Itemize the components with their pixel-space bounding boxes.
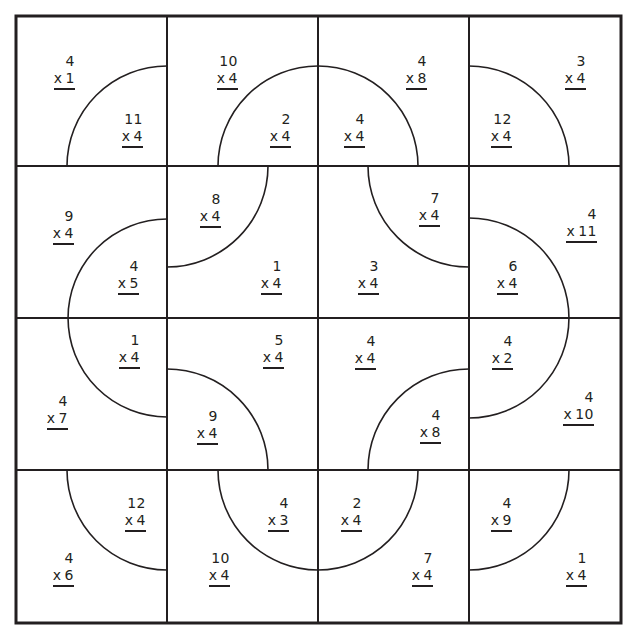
multiplication-problem: 11x4	[122, 111, 143, 148]
multiplier: 11	[578, 223, 597, 239]
multiplicand: 1	[566, 550, 587, 567]
multiplier-row: x4	[419, 207, 440, 227]
multiplication-problem: 8x4	[200, 191, 221, 228]
multiplication-problem: 1x4	[566, 550, 587, 587]
times-sign: x	[344, 128, 353, 144]
times-sign: x	[355, 350, 364, 366]
multiplier: 4	[282, 128, 291, 144]
multiplier-row: x3	[268, 512, 289, 532]
multiplication-problem: 12x4	[125, 495, 146, 532]
times-sign: x	[118, 275, 127, 291]
multiplicand: 4	[406, 53, 427, 70]
multiplication-problem: 10x4	[209, 550, 230, 587]
multiplicand: 7	[412, 550, 433, 567]
multiplier-row: x4	[344, 128, 365, 148]
times-sign: x	[53, 225, 62, 241]
multiplicand: 2	[270, 111, 291, 128]
multiplication-problem: 4x5	[118, 258, 139, 295]
multiplier-row: x4	[491, 128, 512, 148]
multiplier-row: x4	[497, 275, 518, 295]
multiplier: 4	[577, 70, 586, 86]
multiplier-row: x4	[412, 567, 433, 587]
multiplier-row: x4	[355, 350, 376, 370]
multiplicand: 1	[119, 332, 140, 349]
multiplicand: 3	[358, 258, 379, 275]
multiplication-problem: 5x4	[263, 332, 284, 369]
times-sign: x	[263, 349, 272, 365]
multiplier: 4	[134, 128, 143, 144]
multiplier-row: x4	[197, 425, 218, 445]
multiplicand: 12	[491, 111, 512, 128]
multiplicand: 4	[268, 495, 289, 512]
multiplication-problem: 3x4	[358, 258, 379, 295]
multiplication-problem: 4x6	[53, 550, 74, 587]
arc-r0c3	[469, 66, 569, 166]
multiplier: 10	[575, 406, 594, 422]
times-sign: x	[497, 275, 506, 291]
multiplier-row: x4	[122, 128, 143, 148]
multiplication-problem: 4x11	[566, 206, 597, 243]
multiplication-problem: 1x4	[261, 258, 282, 295]
multiplier: 4	[131, 349, 140, 365]
times-sign: x	[406, 70, 415, 86]
multiplier: 4	[503, 128, 512, 144]
multiplication-problem: 4x4	[355, 333, 376, 370]
multiplier-row: x9	[491, 512, 512, 532]
multiplicand: 4	[344, 111, 365, 128]
multiplicand: 8	[200, 191, 221, 208]
times-sign: x	[565, 70, 574, 86]
multiplication-problem: 7x4	[419, 190, 440, 227]
worksheet-page: 4x111x410x42x44x44x812x43x49x44x58x41x43…	[0, 0, 635, 640]
arc-r0c0	[67, 66, 167, 166]
multiplication-problem: 7x4	[412, 550, 433, 587]
times-sign: x	[200, 208, 209, 224]
multiplier-row: x4	[566, 567, 587, 587]
times-sign: x	[122, 128, 131, 144]
multiplicand: 4	[53, 550, 74, 567]
multiplier: 7	[59, 410, 68, 426]
multiplier-row: x11	[566, 223, 597, 243]
multiplier-row: x8	[420, 424, 441, 444]
multiplication-problem: 1x4	[119, 332, 140, 369]
multiplication-problem: 10x4	[217, 53, 238, 90]
multiplication-problem: 4x1	[54, 53, 75, 90]
multiplication-problem: 4x8	[420, 407, 441, 444]
multiplication-problem: 4x9	[491, 495, 512, 532]
multiplicand: 4	[563, 389, 594, 406]
times-sign: x	[54, 70, 63, 86]
arc-r2c2	[368, 369, 469, 470]
times-sign: x	[341, 512, 350, 528]
multiplicand: 9	[53, 208, 74, 225]
multiplier: 4	[431, 207, 440, 223]
times-sign: x	[419, 207, 428, 223]
multiplicand: 4	[355, 333, 376, 350]
puzzle-grid	[0, 0, 635, 640]
multiplicand: 11	[122, 111, 143, 128]
multiplier-row: x4	[119, 349, 140, 369]
multiplicand: 9	[197, 408, 218, 425]
multiplier: 4	[370, 275, 379, 291]
multiplicand: 1	[261, 258, 282, 275]
grid-lines	[16, 16, 621, 623]
multiplier-row: x4	[263, 349, 284, 369]
multiplier-row: x4	[358, 275, 379, 295]
multiplier-row: x4	[209, 567, 230, 587]
multiplication-problem: 4x7	[47, 393, 68, 430]
multiplier-row: x6	[53, 567, 74, 587]
times-sign: x	[125, 512, 134, 528]
multiplicand: 3	[565, 53, 586, 70]
multiplication-problem: 4x10	[563, 389, 594, 426]
multiplication-problem: 4x2	[492, 333, 513, 370]
multiplicand: 4	[492, 333, 513, 350]
multiplier: 4	[353, 512, 362, 528]
multiplier-row: x7	[47, 410, 68, 430]
multiplicand: 4	[491, 495, 512, 512]
multiplicand: 4	[54, 53, 75, 70]
multiplier: 4	[356, 128, 365, 144]
multiplication-problem: 4x8	[406, 53, 427, 90]
multiplier: 1	[66, 70, 75, 86]
multiplier-row: x4	[125, 512, 146, 532]
multiplicand: 4	[47, 393, 68, 410]
multiplier: 4	[209, 425, 218, 441]
times-sign: x	[209, 567, 218, 583]
